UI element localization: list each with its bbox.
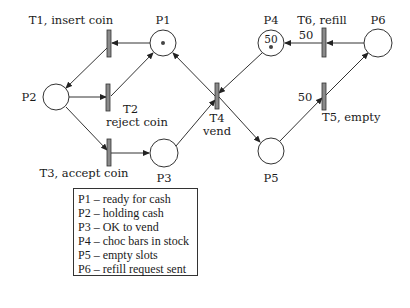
transition-label: T6, refill bbox=[297, 13, 347, 27]
token-icon bbox=[269, 45, 273, 49]
transition-t3: T3, accept coin bbox=[40, 139, 130, 180]
transition-t6: 50 T6, refill bbox=[297, 13, 347, 57]
place-p4: 50 P4 bbox=[258, 13, 284, 56]
capacity-label: 50 bbox=[264, 33, 277, 45]
legend-item: P5 – empty slots bbox=[78, 248, 197, 262]
legend-item: P2 – holding cash bbox=[78, 206, 197, 220]
diagram-svg: P1 P2 P3 50 P4 P5 P6 T1, insert coin T2 … bbox=[0, 0, 410, 308]
legend-box: P1 – ready for cash P2 – holding cash P3… bbox=[73, 188, 198, 276]
place-p5: P5 bbox=[258, 138, 284, 185]
transition-t5: 50 T5, empty bbox=[298, 83, 381, 124]
arc-weight: 50 bbox=[298, 90, 313, 104]
arc-t1-p2 bbox=[66, 48, 107, 88]
transition-label: T5, empty bbox=[322, 110, 381, 124]
arc-p5-t5 bbox=[280, 98, 322, 141]
place-label: P4 bbox=[263, 13, 278, 27]
legend-item: P3 – OK to vend bbox=[78, 220, 197, 234]
place-label: P3 bbox=[156, 171, 171, 185]
arc-p4-t4 bbox=[219, 53, 262, 93]
legend-item: P1 – ready for cash bbox=[78, 192, 197, 206]
transition-t2: T2 reject coin bbox=[106, 84, 168, 129]
place-label: P2 bbox=[21, 90, 36, 104]
transition-t1: T1, insert coin bbox=[29, 13, 114, 57]
transition-label: T2 bbox=[123, 102, 138, 116]
legend-item: P4 – choc bars in stock bbox=[78, 234, 197, 248]
transition-sublabel: reject coin bbox=[106, 115, 168, 129]
transition-label: T1, insert coin bbox=[29, 13, 114, 27]
place-p6: P6 bbox=[364, 13, 392, 57]
arc-weight: 50 bbox=[299, 28, 314, 42]
transition-label: T4 bbox=[210, 111, 225, 125]
place-p3: P3 bbox=[150, 139, 178, 185]
place-p1: P1 bbox=[150, 13, 176, 56]
arc-t2-p1 bbox=[111, 53, 153, 96]
place-label: P5 bbox=[263, 171, 278, 185]
arc-p2-t3 bbox=[66, 107, 107, 150]
legend-item: P6 – refill request sent bbox=[78, 262, 197, 276]
transition-sublabel: vend bbox=[202, 124, 232, 138]
place-label: P6 bbox=[370, 13, 385, 27]
transition-label: T3, accept coin bbox=[40, 166, 130, 180]
arc-t5-p6 bbox=[326, 53, 368, 95]
place-p2: P2 bbox=[21, 84, 69, 110]
arc-t4-p1 bbox=[173, 53, 215, 96]
petri-net-diagram: P1 P2 P3 50 P4 P5 P6 T1, insert coin T2 … bbox=[0, 0, 410, 308]
token-icon bbox=[161, 41, 165, 45]
place-label: P1 bbox=[155, 13, 170, 27]
